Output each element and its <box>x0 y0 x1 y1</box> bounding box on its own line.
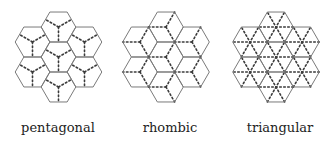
dotted-subdivision-line <box>140 72 149 87</box>
dotted-subdivision-line <box>85 35 98 42</box>
dotted-subdivision-line <box>33 35 46 42</box>
dotted-subdivision-line <box>166 87 175 102</box>
dotted-subdivision-line <box>192 27 201 42</box>
dotted-subdivision-line <box>192 72 201 87</box>
dotted-subdivision-line <box>20 35 33 42</box>
dotted-subdivision-line <box>72 35 85 42</box>
dotted-subdivision-line <box>192 42 201 57</box>
dotted-subdivision-line <box>33 65 46 72</box>
dotted-subdivision-line <box>140 27 149 42</box>
pentagonal-label: pentagonal <box>21 120 95 135</box>
dotted-subdivision-line <box>46 50 59 57</box>
dotted-subdivision-line <box>166 27 175 42</box>
dotted-subdivision-line <box>140 57 149 72</box>
dotted-subdivision-line <box>20 65 33 72</box>
dotted-subdivision-line <box>59 20 72 27</box>
dotted-subdivision-line <box>166 42 175 57</box>
dotted-subdivision-line <box>85 65 98 72</box>
dotted-subdivision-line <box>46 80 59 87</box>
dotted-subdivision-line <box>72 65 85 72</box>
dotted-subdivision-line <box>46 20 59 27</box>
rhombic-label: rhombic <box>143 120 198 135</box>
rhombic-tiling <box>123 12 210 102</box>
dotted-subdivision-line <box>59 50 72 57</box>
dotted-subdivision-line <box>59 80 72 87</box>
dotted-subdivision-line <box>166 72 175 87</box>
triangular-tiling <box>233 12 320 102</box>
dotted-subdivision-line <box>192 57 201 72</box>
dotted-subdivision-line <box>166 12 175 27</box>
pentagonal-tiling <box>15 12 102 102</box>
dotted-subdivision-line <box>140 42 149 57</box>
triangular-label: triangular <box>247 120 314 135</box>
dotted-subdivision-line <box>166 57 175 72</box>
